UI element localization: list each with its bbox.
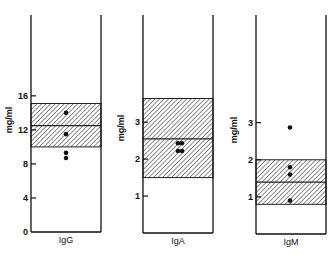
data-point <box>288 198 293 203</box>
y-tick-label: 3 <box>248 118 253 128</box>
y-tick-label: 8 <box>23 159 28 169</box>
panel-label: IgA <box>171 236 185 246</box>
data-point <box>64 156 69 161</box>
y-axis-label: mg/ml <box>4 107 14 134</box>
data-point <box>180 141 185 146</box>
y-tick-label: 3 <box>135 117 140 127</box>
data-point <box>288 172 293 177</box>
data-point <box>180 149 185 154</box>
immunoglobulin-chart: 0481216mg/mlIgG123mg/mlIgA123mg/mlIgM <box>0 0 334 255</box>
y-tick-label: 2 <box>248 155 253 165</box>
panel-igm: 123mg/mlIgM <box>229 15 326 247</box>
data-point <box>64 111 69 116</box>
normal-range-band <box>143 99 213 178</box>
panel-iga: 123mg/mlIgA <box>116 15 213 246</box>
y-tick-label: 1 <box>135 191 140 201</box>
y-tick-label: 12 <box>18 125 28 135</box>
y-axis-label: mg/ml <box>229 117 239 144</box>
y-tick-label: 2 <box>135 154 140 164</box>
data-point <box>64 132 69 137</box>
y-axis-label: mg/ml <box>116 115 126 142</box>
y-tick-label: 1 <box>248 192 253 202</box>
panel-label: IgG <box>59 235 74 245</box>
data-point <box>176 149 181 154</box>
y-tick-label: 0 <box>23 227 28 237</box>
data-point <box>288 125 293 130</box>
data-point <box>288 165 293 170</box>
y-tick-label: 4 <box>23 193 28 203</box>
data-point <box>176 141 181 146</box>
panel-label: IgM <box>283 237 298 247</box>
y-tick-label: 16 <box>18 91 28 101</box>
panel-igg: 0481216mg/mlIgG <box>4 15 101 245</box>
data-point <box>64 151 69 156</box>
